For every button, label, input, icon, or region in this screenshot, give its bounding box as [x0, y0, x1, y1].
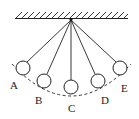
- label-d: D: [101, 94, 109, 106]
- pendulum-bobs: [16, 61, 127, 94]
- bob-c: [64, 80, 78, 94]
- ceiling-hatching: [16, 12, 128, 18]
- bob-e: [113, 61, 127, 75]
- bob-b: [37, 74, 51, 88]
- label-e: E: [121, 82, 128, 94]
- bob-d: [91, 74, 105, 88]
- label-c: C: [68, 102, 75, 114]
- string-b: [47, 20, 71, 74]
- string-e: [71, 20, 116, 62]
- bob-a: [16, 61, 30, 75]
- ceiling-support: [15, 12, 128, 19]
- string-a: [27, 20, 71, 62]
- label-a: A: [10, 79, 18, 91]
- pendulum-strings: [27, 20, 116, 80]
- string-d: [71, 20, 95, 74]
- label-b: B: [35, 94, 42, 106]
- pendulum-diagram: A B C D E: [0, 0, 139, 119]
